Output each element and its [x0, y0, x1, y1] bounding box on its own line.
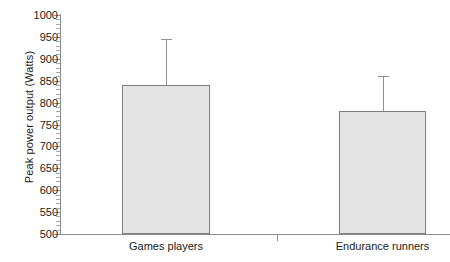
y-minor-tick [56, 142, 60, 143]
bar-games-players [122, 85, 210, 234]
y-minor-tick [56, 120, 60, 121]
bar-chart: Peak power output (Watts) 10009509008508… [0, 0, 450, 262]
x-axis-line [60, 234, 450, 235]
y-minor-tick [56, 111, 60, 112]
y-minor-tick [56, 76, 60, 77]
x-label-1: Endurance runners [303, 240, 450, 252]
error-bar-cap-0 [161, 39, 172, 40]
y-minor-tick [56, 173, 60, 174]
y-minor-tick [56, 151, 60, 152]
y-minor-tick [56, 28, 60, 29]
y-minor-tick [56, 24, 60, 25]
y-tick-label-750: 750 [0, 120, 58, 131]
y-minor-tick [56, 199, 60, 200]
y-minor-tick [56, 98, 60, 99]
y-minor-tick [56, 94, 60, 95]
y-tick-label-650: 650 [0, 163, 58, 174]
y-minor-tick [56, 133, 60, 134]
y-minor-tick [56, 107, 60, 108]
error-bar-line-1 [383, 76, 384, 111]
y-minor-tick [56, 50, 60, 51]
y-minor-tick [56, 63, 60, 64]
y-minor-tick [56, 155, 60, 156]
y-minor-tick [56, 33, 60, 34]
y-tick-label-550: 550 [0, 207, 58, 218]
x-axis-tick [277, 235, 278, 241]
y-minor-tick [56, 116, 60, 117]
y-minor-tick [56, 216, 60, 217]
y-minor-tick [56, 46, 60, 47]
y-minor-tick [56, 85, 60, 86]
y-axis-line [60, 14, 61, 235]
y-minor-tick [56, 177, 60, 178]
y-minor-tick [56, 41, 60, 42]
y-minor-tick [56, 186, 60, 187]
y-minor-tick [56, 54, 60, 55]
y-minor-tick [56, 181, 60, 182]
y-minor-tick [56, 203, 60, 204]
y-minor-tick [56, 138, 60, 139]
y-minor-tick [56, 129, 60, 130]
y-minor-tick [56, 68, 60, 69]
y-tick-label-850: 850 [0, 76, 58, 87]
y-tick-label-700: 700 [0, 141, 58, 152]
error-bar-cap-1 [378, 76, 389, 77]
x-label-0: Games players [86, 240, 246, 252]
y-minor-tick [56, 164, 60, 165]
y-tick-label-600: 600 [0, 185, 58, 196]
y-minor-tick [56, 225, 60, 226]
y-minor-tick [56, 72, 60, 73]
y-minor-tick [56, 208, 60, 209]
y-minor-tick [56, 230, 60, 231]
y-minor-tick [56, 195, 60, 196]
y-tick-label-800: 800 [0, 98, 58, 109]
y-minor-tick [56, 160, 60, 161]
error-bar-line-0 [166, 39, 167, 85]
bar-endurance-runners [339, 111, 426, 234]
y-tick-label-950: 950 [0, 32, 58, 43]
y-tick-label-900: 900 [0, 54, 58, 65]
y-minor-tick [56, 89, 60, 90]
y-tick-label-500: 500 [0, 229, 58, 240]
y-tick-label-1000: 1000 [0, 10, 58, 21]
y-minor-tick [56, 221, 60, 222]
y-minor-tick [56, 19, 60, 20]
